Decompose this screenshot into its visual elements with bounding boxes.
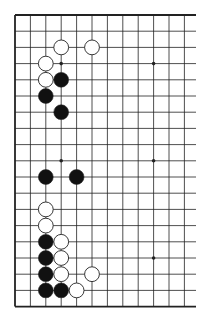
white-stone[interactable] — [38, 218, 53, 233]
white-stone[interactable] — [85, 40, 100, 55]
white-stone[interactable] — [54, 267, 69, 282]
black-stone[interactable] — [38, 89, 53, 104]
black-stone[interactable] — [38, 170, 53, 185]
star-point-icon — [152, 159, 156, 163]
black-stone[interactable] — [69, 170, 84, 185]
white-stone[interactable] — [69, 283, 84, 298]
star-point-icon — [152, 256, 156, 260]
black-stone[interactable] — [38, 234, 53, 249]
black-stone[interactable] — [38, 283, 53, 298]
star-point-icon — [59, 159, 63, 163]
star-point-icon — [59, 62, 63, 66]
white-stone[interactable] — [54, 251, 69, 266]
stones-layer[interactable] — [38, 40, 99, 298]
black-stone[interactable] — [54, 283, 69, 298]
white-stone[interactable] — [85, 267, 100, 282]
black-stone[interactable] — [54, 72, 69, 87]
white-stone[interactable] — [38, 72, 53, 87]
go-board[interactable] — [0, 0, 204, 320]
white-stone[interactable] — [54, 40, 69, 55]
white-stone[interactable] — [54, 234, 69, 249]
black-stone[interactable] — [38, 251, 53, 266]
black-stone[interactable] — [54, 105, 69, 120]
white-stone[interactable] — [38, 202, 53, 217]
black-stone[interactable] — [38, 267, 53, 282]
white-stone[interactable] — [38, 56, 53, 71]
star-point-icon — [152, 62, 156, 66]
